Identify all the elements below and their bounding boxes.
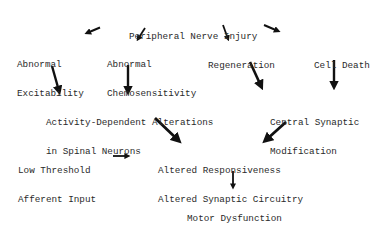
node-line: Regeneration: [208, 61, 275, 71]
node-line: Activity-Dependent Alterations: [46, 118, 213, 128]
node-line: Motor Dysfunction: [187, 214, 304, 224]
node-line: Cell Death: [314, 61, 370, 71]
arrow-injury-to-cell-death: [264, 25, 278, 31]
node-line: Abnormal: [17, 60, 84, 70]
node-dysfunction: Motor Dysfunction Autonomic Dysfunction …: [187, 195, 304, 234]
node-line: Low Threshold: [18, 166, 96, 176]
node-line: Chemosensitivity: [107, 89, 196, 99]
node-line: Abnormal: [107, 60, 196, 70]
node-cell-death: Cell Death: [314, 42, 370, 90]
node-line: Excitability: [17, 89, 84, 99]
node-low-threshold-afferent-input: Low Threshold Afferent Input: [18, 147, 96, 224]
diagram-canvas: Peripheral Nerve Injury Abnormal Excitab…: [0, 0, 385, 234]
arrow-injury-to-excitability: [87, 28, 100, 34]
node-line: Altered Responsiveness: [158, 166, 303, 176]
node-regeneration: Regeneration: [208, 42, 275, 90]
node-line: Afferent Input: [18, 195, 96, 205]
node-line: Central Synaptic: [270, 118, 359, 128]
